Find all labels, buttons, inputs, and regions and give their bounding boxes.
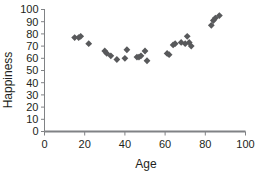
- data-point: [142, 48, 149, 55]
- y-tick-label: 40: [26, 77, 38, 89]
- x-tick-label: 100: [236, 138, 254, 150]
- x-axis-title: Age: [135, 157, 157, 171]
- y-tick-label: 10: [26, 113, 38, 125]
- data-point: [184, 33, 191, 40]
- y-tick-label: 0: [32, 125, 38, 137]
- scatter-chart: 0102030405060708090100 020406080100 Age …: [0, 0, 264, 174]
- y-tick-label: 70: [26, 40, 38, 52]
- y-tick-label: 20: [26, 101, 38, 113]
- x-tick-label: 40: [119, 138, 131, 150]
- y-tick-label: 90: [26, 16, 38, 28]
- x-tick-label: 0: [41, 138, 47, 150]
- x-tick-label: 20: [79, 138, 91, 150]
- y-tick-label: 100: [20, 3, 38, 15]
- y-axis-title: Happiness: [1, 52, 15, 109]
- y-axis-ticks: 0102030405060708090100: [20, 3, 44, 137]
- y-tick-label: 80: [26, 28, 38, 40]
- y-tick-label: 30: [26, 89, 38, 101]
- data-point: [124, 46, 131, 53]
- y-tick-label: 50: [26, 64, 38, 76]
- axis-lines: [45, 9, 246, 132]
- x-axis-ticks: 020406080100: [41, 132, 254, 150]
- x-tick-label: 60: [159, 138, 171, 150]
- data-points: [71, 12, 223, 64]
- data-point: [85, 40, 92, 47]
- chart-canvas: 0102030405060708090100 020406080100 Age …: [0, 0, 264, 174]
- x-tick-label: 80: [199, 138, 211, 150]
- data-point: [122, 55, 129, 62]
- data-point: [144, 57, 151, 64]
- data-point: [113, 56, 120, 63]
- y-tick-label: 60: [26, 52, 38, 64]
